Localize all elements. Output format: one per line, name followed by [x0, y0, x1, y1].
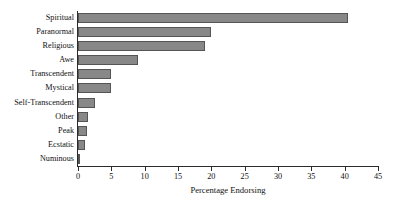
- bar: [78, 112, 88, 122]
- bar-chart: SpiritualParanormalReligiousAweTranscend…: [0, 0, 396, 204]
- bar-row: [78, 96, 378, 110]
- bar: [78, 154, 80, 164]
- bar: [78, 126, 87, 136]
- bar: [78, 13, 348, 23]
- category-label: Spiritual: [0, 11, 74, 25]
- x-tick-mark: [78, 167, 79, 171]
- category-label: Self-Transcendent: [0, 96, 74, 110]
- bar: [78, 140, 85, 150]
- bar-row: [78, 25, 378, 39]
- bar-row: [78, 138, 378, 152]
- bar-row: [78, 11, 378, 25]
- x-axis-title: Percentage Endorsing: [78, 185, 378, 195]
- category-axis-labels: SpiritualParanormalReligiousAweTranscend…: [0, 11, 74, 166]
- category-label: Other: [0, 110, 74, 124]
- category-label: Numinous: [0, 152, 74, 166]
- category-label: Peak: [0, 124, 74, 138]
- bar: [78, 41, 205, 51]
- bar-row: [78, 124, 378, 138]
- category-label: Ecstatic: [0, 138, 74, 152]
- x-tick-label: 5: [109, 172, 113, 182]
- x-tick-label: 15: [174, 172, 182, 182]
- bar-row: [78, 81, 378, 95]
- x-tick-label: 40: [341, 172, 349, 182]
- x-tick-mark: [278, 167, 279, 171]
- bar-row: [78, 39, 378, 53]
- x-tick-mark: [211, 167, 212, 171]
- category-label: Awe: [0, 53, 74, 67]
- x-tick-label: 25: [241, 172, 249, 182]
- bar-row: [78, 53, 378, 67]
- x-tick-mark: [345, 167, 346, 171]
- x-tick-label: 20: [207, 172, 215, 182]
- bar: [78, 55, 138, 65]
- category-label: Transcendent: [0, 67, 74, 81]
- bar-row: [78, 152, 378, 166]
- bar: [78, 27, 211, 37]
- x-tick-mark: [245, 167, 246, 171]
- x-tick-label: 30: [274, 172, 282, 182]
- bar-row: [78, 110, 378, 124]
- x-tick-mark: [378, 167, 379, 171]
- category-label: Paranormal: [0, 25, 74, 39]
- x-tick-mark: [111, 167, 112, 171]
- x-tick-label: 0: [76, 172, 80, 182]
- x-tick-mark: [145, 167, 146, 171]
- bar: [78, 83, 111, 93]
- bar: [78, 69, 111, 79]
- x-tick-label: 45: [374, 172, 382, 182]
- x-tick-mark: [311, 167, 312, 171]
- x-tick-label: 35: [307, 172, 315, 182]
- plot-area: [78, 11, 378, 166]
- x-axis-ticks: 051015202530354045: [78, 167, 378, 171]
- category-label: Religious: [0, 39, 74, 53]
- x-tick-mark: [178, 167, 179, 171]
- x-tick-label: 10: [141, 172, 149, 182]
- category-label: Mystical: [0, 81, 74, 95]
- bar-row: [78, 67, 378, 81]
- bar: [78, 98, 95, 108]
